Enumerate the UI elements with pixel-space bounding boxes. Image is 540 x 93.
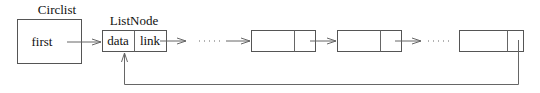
listnode-3	[338, 31, 402, 52]
listnode-box	[460, 31, 524, 52]
listnode-2	[252, 31, 316, 52]
circular-list-diagram: Circlist first ListNode data link	[0, 0, 540, 93]
listnode-data-field: data	[107, 33, 129, 48]
circlist-first-field: first	[32, 34, 53, 49]
listnode-link-field: link	[140, 33, 161, 48]
circlist-label: Circlist	[38, 2, 77, 17]
circlist-object: Circlist first	[18, 2, 82, 64]
listnode-first: ListNode data link	[103, 13, 167, 52]
listnode-box	[338, 31, 402, 52]
listnode-box	[252, 31, 316, 52]
listnode-last	[460, 31, 524, 52]
listnode-label: ListNode	[110, 13, 159, 28]
